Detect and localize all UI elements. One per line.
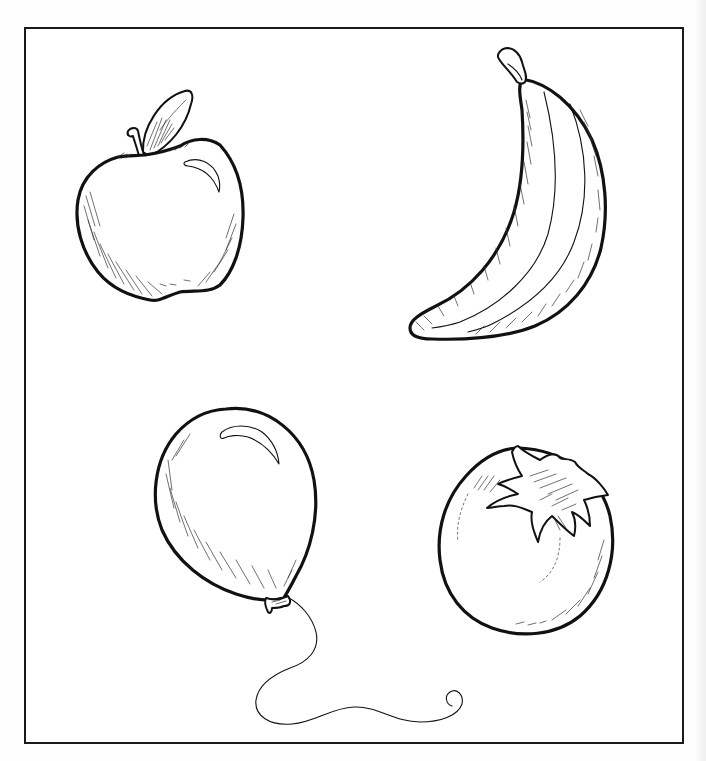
balloon-icon: balloon: [155, 408, 462, 724]
worksheet-page: apple banana: [0, 0, 706, 761]
illustrations: apple banana: [0, 0, 706, 761]
banana-icon: banana: [410, 48, 605, 339]
tomato-icon: tomato: [439, 446, 613, 634]
apple-icon: apple: [77, 91, 243, 301]
